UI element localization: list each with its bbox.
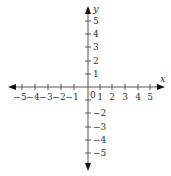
x-axis-left-arrow-icon <box>8 84 16 90</box>
svg-text:−2: −2 <box>52 92 65 102</box>
coordinate-plane: x y 0 −5 −4 −3 −2 −1 1 2 3 4 5 5 4 3 2 1… <box>0 0 171 176</box>
x-axis-right-arrow-icon <box>157 84 165 90</box>
svg-text:2: 2 <box>109 92 115 102</box>
svg-text:5: 5 <box>147 92 153 102</box>
svg-text:−2: −2 <box>93 108 106 118</box>
x-axis-label: x <box>160 73 166 84</box>
y-tick-labels-positive: 5 4 3 2 1 <box>93 16 99 79</box>
svg-text:4: 4 <box>93 29 99 39</box>
svg-text:3: 3 <box>122 92 128 102</box>
svg-text:−5: −5 <box>13 92 27 102</box>
origin-label: 0 <box>90 90 96 100</box>
svg-text:2: 2 <box>93 56 99 66</box>
x-tick-labels: −5 −4 −3 −2 −1 1 2 3 4 5 <box>13 92 153 102</box>
svg-text:1: 1 <box>93 69 99 79</box>
svg-text:1: 1 <box>97 92 103 102</box>
y-axis-up-arrow-icon <box>85 6 91 14</box>
svg-text:−4: −4 <box>93 135 107 145</box>
svg-text:3: 3 <box>93 42 99 52</box>
svg-text:−3: −3 <box>93 122 107 132</box>
svg-text:−3: −3 <box>39 92 53 102</box>
y-axis-down-arrow-icon <box>85 163 91 171</box>
svg-text:5: 5 <box>93 16 99 26</box>
svg-text:4: 4 <box>135 92 141 102</box>
svg-text:−5: −5 <box>93 148 107 158</box>
y-tick-labels-negative: −2 −3 −4 −5 <box>93 108 107 158</box>
svg-text:−4: −4 <box>26 92 40 102</box>
y-axis-label: y <box>92 3 99 14</box>
svg-text:−1: −1 <box>65 92 78 102</box>
